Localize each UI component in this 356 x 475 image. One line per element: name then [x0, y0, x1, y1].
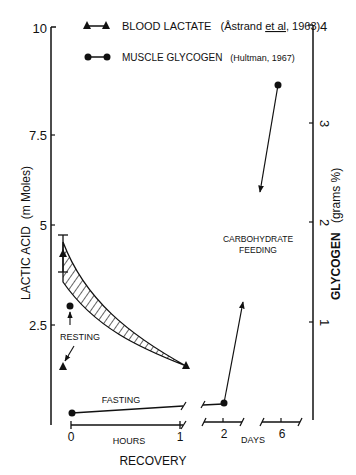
legend-glycogen-marker [85, 54, 111, 61]
x-axis-label: RECOVERY [119, 454, 186, 468]
right-tick-1: 1 [317, 319, 332, 326]
glycogen-series: FASTING CARBOHYDRATE FEEDING [69, 82, 294, 417]
lactate-band [63, 242, 186, 366]
days-label: DAYS [241, 435, 265, 445]
left-axis: 10 7.5 5 2.5 LACTIC ACID (m Moles) [19, 21, 56, 425]
x-tick-2: 2 [221, 427, 228, 441]
feeding-label: FEEDING [239, 245, 277, 255]
resting-label: RESTING [60, 332, 100, 342]
legend-glycogen-label: MUSCLE GLYCOGEN (Hultman, 1967) [122, 52, 295, 63]
fasting-label: FASTING [102, 395, 141, 405]
hours-label: HOURS [113, 436, 146, 446]
lactate-resting-point [59, 362, 67, 370]
left-tick-5: 5 [40, 218, 47, 233]
lactate-series [58, 235, 190, 370]
legend: BLOOD LACTATE (Åstrand et al, 1963) MUSC… [83, 20, 320, 63]
glycogen-resting-point [67, 303, 74, 310]
right-axis: 4 3 2 1 GLYCOGEN (grams %) [308, 19, 343, 420]
x-tick-0: 0 [68, 430, 75, 444]
glycogen-point-0h [69, 410, 76, 417]
chart: BLOOD LACTATE (Åstrand et al, 1963) MUSC… [0, 0, 356, 475]
legend-lactate-marker [83, 21, 110, 29]
x-tick-6: 6 [279, 427, 286, 441]
left-tick-10: 10 [33, 21, 47, 36]
x-tick-1: 1 [177, 430, 184, 444]
right-tick-3: 3 [317, 120, 332, 127]
left-axis-label: LACTIC ACID (m Moles) [19, 166, 33, 300]
legend-lactate-label: BLOOD LACTATE (Åstrand et al, 1963) [122, 20, 320, 32]
carbohydrate-label: CARBOHYDRATE [223, 234, 294, 244]
left-tick-2-5: 2.5 [29, 318, 47, 333]
x-axis: 0 1 2 6 HOURS DAYS RECOVERY [68, 418, 302, 468]
left-tick-7-5: 7.5 [29, 128, 47, 143]
right-axis-label: GLYCOGEN (grams %) [329, 168, 343, 300]
right-tick-4: 4 [320, 19, 327, 34]
